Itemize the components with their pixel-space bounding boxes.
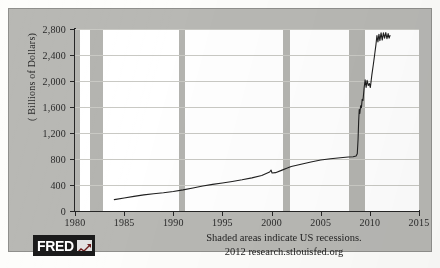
y-axis-tick-label: 2,400 xyxy=(43,50,67,61)
y-axis-tick-label: 0 xyxy=(61,206,66,217)
x-axis-tick-label: 2005 xyxy=(310,217,331,228)
y-axis-tick-label: 2,800 xyxy=(43,24,67,35)
caption-line-source: 2012 research.stlouisfed.org xyxy=(159,245,409,259)
x-axis-tick-label: 1980 xyxy=(65,217,86,228)
y-axis-tick-label: 1,600 xyxy=(43,102,67,113)
x-axis-tick-label: 1990 xyxy=(163,217,184,228)
data-series-line xyxy=(75,29,419,211)
caption-line-recessions: Shaded areas indicate US recessions. xyxy=(159,231,409,245)
y-axis-tick-label: 2,000 xyxy=(43,76,67,87)
fred-chart-panel: ( Billions of Dollars) 04008001,2001,600… xyxy=(8,8,432,252)
x-axis-tick-label: 2015 xyxy=(409,217,430,228)
y-axis-tick-label: 800 xyxy=(50,154,66,165)
x-axis-tick-label: 2010 xyxy=(359,217,380,228)
x-axis-tick-mark xyxy=(419,211,420,216)
x-axis-tick-label: 1985 xyxy=(114,217,135,228)
x-axis-tick-mark xyxy=(124,211,125,216)
x-axis-tick-label: 2000 xyxy=(261,217,282,228)
x-axis-tick-mark xyxy=(75,211,76,216)
plot-area: 04008001,2001,6002,0002,4002,800 1980198… xyxy=(75,29,419,211)
x-axis-tick-label: 1995 xyxy=(212,217,233,228)
chart-arrow-mark-icon xyxy=(77,240,92,251)
y-axis-tick-label: 1,200 xyxy=(43,128,67,139)
fred-logo-wordmark: FRED xyxy=(37,239,74,253)
x-axis-tick-mark xyxy=(173,211,174,216)
x-axis-tick-mark xyxy=(272,211,273,216)
fred-logo[interactable]: FRED xyxy=(33,235,95,256)
chart-caption: Shaded areas indicate US recessions. 201… xyxy=(159,231,409,259)
x-axis-tick-mark xyxy=(321,211,322,216)
x-axis-tick-mark xyxy=(222,211,223,216)
x-axis-tick-mark xyxy=(370,211,371,216)
screenshot-root: ( Billions of Dollars) 04008001,2001,600… xyxy=(0,0,440,268)
y-axis-title: ( Billions of Dollars) xyxy=(26,33,37,121)
y-axis-tick-label: 400 xyxy=(50,180,66,191)
